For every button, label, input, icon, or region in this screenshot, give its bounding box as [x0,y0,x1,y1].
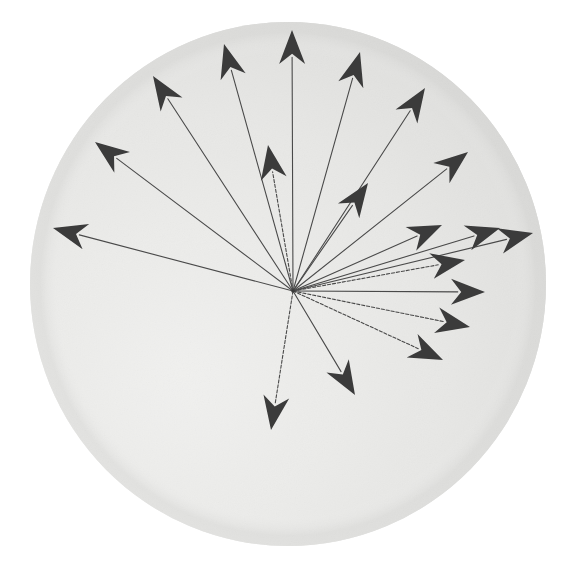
figure-root: Radial vector diagram on shaded sphere [0,0,573,570]
vector-field-canvas [0,0,573,570]
vector-origin [291,289,295,293]
